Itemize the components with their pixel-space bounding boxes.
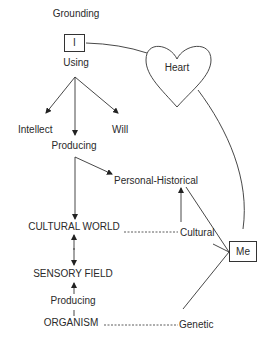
arrow-using-will [75, 77, 118, 113]
diagram-connectors [0, 0, 267, 339]
label-using: Using [63, 57, 89, 69]
arrow-producing-personal [75, 157, 112, 174]
label-will: Will [112, 124, 128, 136]
i-box: I [64, 34, 85, 52]
label-heart: Heart [165, 62, 189, 74]
label-intellect: Intellect [18, 124, 52, 136]
heart-icon [146, 46, 211, 107]
label-cultural: Cultural [180, 227, 214, 239]
me-box: Me [229, 241, 257, 262]
i-to-heart-curve [86, 43, 147, 53]
label-personal-historical: Personal-Historical [114, 175, 198, 187]
label-cultural-world: CULTURAL WORLD [28, 221, 120, 233]
label-producing-top: Producing [51, 140, 96, 152]
line-personal-me [186, 187, 229, 252]
label-organism: ORGANISM [44, 317, 98, 329]
arrow-using-intellect [46, 77, 75, 113]
label-sensory-field: SENSORY FIELD [33, 268, 113, 280]
label-producing-bottom: Producing [50, 295, 95, 307]
label-grounding: Grounding [53, 8, 100, 20]
label-genetic: Genetic [179, 319, 213, 331]
line-genetic-me [183, 252, 229, 309]
heart-to-me-curve [198, 90, 244, 229]
